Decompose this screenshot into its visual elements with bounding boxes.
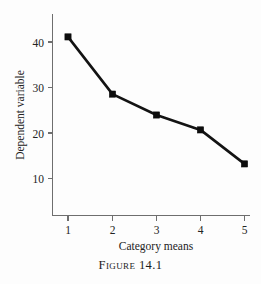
data-point-2 xyxy=(109,91,115,97)
y-tick-label-20: 20 xyxy=(33,128,45,140)
y-axis-title: Dependent variable xyxy=(14,70,27,160)
data-point-1 xyxy=(65,34,71,40)
x-tick-label-5: 5 xyxy=(242,224,248,236)
data-point-4 xyxy=(197,127,203,133)
y-tick-label-10: 10 xyxy=(33,173,45,185)
line-chart: 40 30 20 10 1 2 3 4 5 Category means xyxy=(0,0,261,284)
y-tick-label-40: 40 xyxy=(33,37,45,49)
data-series-line xyxy=(68,37,245,164)
x-tick-label-2: 2 xyxy=(110,224,116,236)
x-tick-label-4: 4 xyxy=(198,224,204,236)
x-axis-ticks xyxy=(68,216,245,222)
data-point-3 xyxy=(153,112,159,118)
x-axis-title: Category means xyxy=(119,240,194,253)
x-tick-label-3: 3 xyxy=(154,224,160,236)
x-tick-label-1: 1 xyxy=(65,224,71,236)
figure-caption: Figure 14.1 xyxy=(0,258,261,273)
figure-container: 40 30 20 10 1 2 3 4 5 Category means xyxy=(0,0,261,284)
data-markers xyxy=(65,34,248,167)
y-tick-label-30: 30 xyxy=(33,82,45,94)
data-point-5 xyxy=(241,161,247,167)
